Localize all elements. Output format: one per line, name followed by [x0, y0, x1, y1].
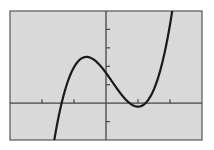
graph-screen — [0, 0, 214, 150]
